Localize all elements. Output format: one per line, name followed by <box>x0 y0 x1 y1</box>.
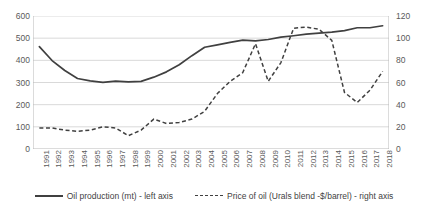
legend-swatch-solid-line-icon <box>35 193 63 199</box>
x-axis-tick-label: 2008 <box>259 150 267 168</box>
x-axis-tick-label: 2004 <box>208 150 216 168</box>
x-axis-tick-label: 2013 <box>322 150 330 168</box>
x-axis-tick-label: 2014 <box>335 150 343 168</box>
x-axis-tick-label: 1992 <box>55 150 63 168</box>
axis-tick-label: 0 <box>396 145 401 153</box>
x-axis-tick-label: 1999 <box>144 150 152 168</box>
axis-tick-label: 120 <box>396 12 410 20</box>
axis-tick-label: 500 <box>16 34 30 42</box>
x-axis-tick-label: 2011 <box>297 150 305 167</box>
left-axis-tick-labels: 6005004003002001000 <box>2 16 30 149</box>
x-axis-tick-label: 1994 <box>81 150 89 168</box>
legend-swatch-dashed-line-icon <box>195 193 223 199</box>
axis-tick-label: 80 <box>396 56 405 64</box>
x-axis-tick-label: 2005 <box>221 150 229 168</box>
axis-tick-label: 600 <box>16 12 30 20</box>
legend-item-oil-production: Oil production (mt) - left axis <box>35 191 173 201</box>
x-axis-tick-label: 2009 <box>272 150 280 168</box>
x-axis-tick-label: 1993 <box>68 150 76 168</box>
x-axis-tick-label: 2010 <box>284 150 292 168</box>
x-axis-tick-label: 2000 <box>157 150 165 168</box>
chart-svg <box>33 16 389 149</box>
gridlines <box>33 16 389 149</box>
x-axis-tick-label: 2015 <box>348 150 356 168</box>
x-axis-tick-label: 2006 <box>233 150 241 168</box>
x-axis-tick-labels: 1991199219931994199519961997199819992000… <box>33 150 389 184</box>
axis-tick-label: 400 <box>16 56 30 64</box>
axis-tick-label: 200 <box>16 101 30 109</box>
x-axis-tick-label: 2007 <box>246 150 254 168</box>
x-axis-tick-label: 2016 <box>361 150 369 168</box>
chart-container: 6005004003002001000 120100806040200 1991… <box>0 0 428 207</box>
x-axis-tick-label: 2003 <box>195 150 203 168</box>
axis-tick-label: 20 <box>396 123 405 131</box>
x-axis-tick-label: 2001 <box>170 150 178 168</box>
x-axis-tick-label: 1997 <box>119 150 127 168</box>
legend-label-oil-production: Oil production (mt) - left axis <box>67 191 173 201</box>
axis-tick-label: 100 <box>396 34 410 42</box>
x-axis-tick-label: 2018 <box>386 150 394 168</box>
series-line-oil-production <box>39 26 382 83</box>
x-axis-tick-label: 1991 <box>43 150 51 168</box>
chart-legend: Oil production (mt) - left axis Price of… <box>0 188 428 204</box>
legend-item-oil-price: Price of oil (Urals blend -$/barrel) - r… <box>195 191 393 201</box>
x-axis-tick-label: 1998 <box>132 150 140 168</box>
x-axis-tick-label: 1996 <box>106 150 114 168</box>
axis-tick-label: 40 <box>396 101 405 109</box>
axis-tick-label: 300 <box>16 79 30 87</box>
x-axis-tick-label: 2017 <box>373 150 381 168</box>
x-axis-tick-label: 2002 <box>183 150 191 168</box>
x-axis-tick-label: 1995 <box>94 150 102 168</box>
legend-label-oil-price: Price of oil (Urals blend -$/barrel) - r… <box>227 191 393 201</box>
axis-tick-label: 0 <box>25 145 30 153</box>
right-axis-tick-labels: 120100806040200 <box>392 16 420 149</box>
axis-tick-label: 60 <box>396 79 405 87</box>
plot-area <box>33 16 389 149</box>
cropped-header-text <box>54 0 354 2</box>
axis-tick-label: 100 <box>16 123 30 131</box>
x-axis-tick-label: 2012 <box>310 150 318 168</box>
